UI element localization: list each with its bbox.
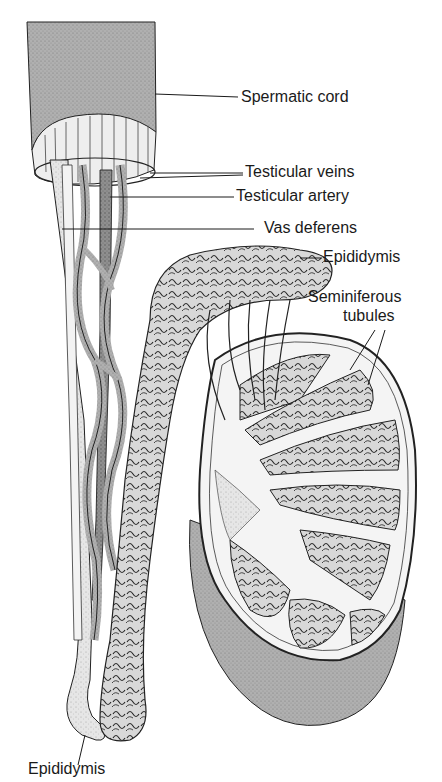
- anatomy-illustration: [0, 0, 442, 782]
- label-seminiferous-line1: Seminiferous: [308, 288, 401, 306]
- label-epididymis-bottom: Epididymis: [28, 760, 105, 778]
- label-epididymis-top: Epididymis: [323, 248, 400, 266]
- label-testicular-artery: Testicular artery: [236, 187, 349, 205]
- label-vas-deferens: Vas deferens: [264, 219, 357, 237]
- label-seminiferous-line2: tubules: [343, 307, 395, 325]
- label-spermatic-cord: Spermatic cord: [241, 88, 349, 106]
- label-testicular-veins: Testicular veins: [245, 163, 354, 181]
- spermatic-cord: [27, 22, 156, 186]
